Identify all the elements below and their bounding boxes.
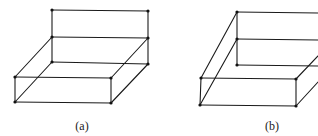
vertex-dot [235,10,238,13]
edge [200,105,296,106]
edge [237,39,318,40]
vertex-dot [13,100,16,103]
edge [200,39,237,105]
edge [52,62,148,64]
vertex-dot [146,9,149,12]
vertex-dot [13,75,16,78]
vertex-dot [50,35,53,38]
edge [201,12,237,78]
vertex-dot [235,37,238,40]
caption-a: (a) [75,119,88,133]
vertex-dot [50,8,53,11]
figure-b [198,10,318,107]
edge [111,38,148,78]
diagram-canvas: (a) (b) [0,0,318,136]
edge [237,65,318,66]
edge [111,64,148,103]
vertex-dot [294,104,297,107]
vertex-dot [50,60,53,63]
edge [15,102,111,103]
vertex-dot [294,77,297,80]
edge [296,82,318,106]
vertex-dot [199,76,202,79]
edge [200,78,201,105]
edge [15,37,52,77]
edge [52,10,148,11]
vertex-dot [198,103,201,106]
edge [296,56,318,79]
vertex-dot [109,101,112,104]
vertex-dot [109,76,112,79]
vertex-dot [146,36,149,39]
vertex-dot [235,63,238,66]
edge [15,77,111,78]
vertex-dot [146,62,149,65]
caption-b: (b) [265,119,279,133]
edge [237,12,318,13]
edge [52,37,148,38]
edge [15,62,52,102]
figure-a [13,8,149,104]
